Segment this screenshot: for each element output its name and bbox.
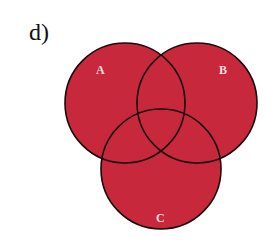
set-label-b: B	[219, 63, 227, 77]
venn-diagram: A B C	[0, 0, 277, 247]
venn-fills	[65, 43, 257, 229]
set-label-c: C	[156, 211, 165, 225]
set-label-a: A	[96, 63, 105, 77]
